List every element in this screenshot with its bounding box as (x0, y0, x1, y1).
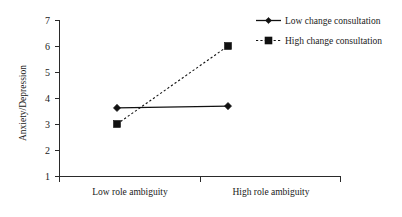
interaction-plot-figure: Anxiety/Depression 7 6 5 4 3 2 1 Low rol… (0, 0, 402, 217)
y-tick-label-4: 4 (45, 93, 50, 104)
legend-label-low-change-consultation: Low change consultation (285, 16, 381, 26)
data-point-high-change-high-ambiguity (225, 43, 232, 50)
y-tick-label-6: 6 (45, 41, 50, 52)
y-tick-label-7: 7 (45, 15, 50, 26)
x-category-label-low: Low role ambiguity (92, 187, 168, 197)
chart-canvas: Anxiety/Depression 7 6 5 4 3 2 1 Low rol… (0, 0, 402, 217)
y-tick-label-2: 2 (45, 145, 50, 156)
y-tick-label-1: 1 (45, 171, 50, 182)
chart-background (0, 0, 402, 217)
y-tick-label-5: 5 (45, 67, 50, 78)
data-point-high-change-low-ambiguity (114, 121, 121, 128)
legend-marker-high-change-consultation (265, 37, 272, 44)
y-axis-title: Anxiety/Depression (18, 65, 28, 141)
y-tick-label-3: 3 (45, 119, 50, 130)
legend-label-high-change-consultation: High change consultation (285, 36, 382, 46)
x-category-label-high: High role ambiguity (232, 187, 309, 197)
